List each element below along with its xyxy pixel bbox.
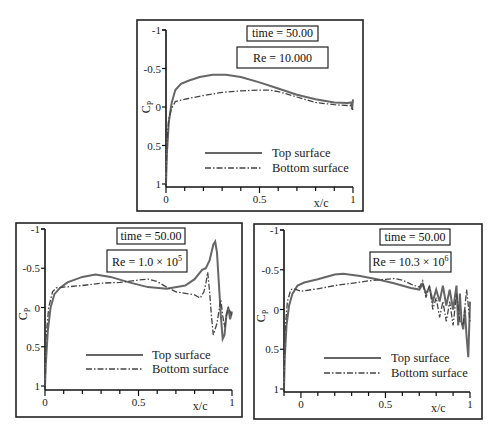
x-axis-label: x/c <box>193 399 208 413</box>
x-tick-label: 0 <box>163 193 169 205</box>
x-tick-label: 0 <box>42 396 48 408</box>
y-axis-label: CP <box>139 100 155 113</box>
x-tick-label: 0.5 <box>253 193 267 205</box>
x-axis-label: x/c <box>314 196 329 210</box>
y-tick-label: -1 <box>31 223 40 235</box>
x-tick-label: 0 <box>298 398 304 410</box>
x-axis-label: x/c <box>431 401 446 415</box>
x-tick-label: 0.5 <box>379 398 393 410</box>
y-tick-label: 1 <box>35 380 41 392</box>
legend-top-surface-label: Top surface <box>272 146 331 160</box>
time-label: time = 50.00 <box>120 229 181 243</box>
chart-panel-1: -1-0.500.5100.51x/cCPtime = 50.00Re = 10… <box>137 20 363 211</box>
x-tick-label: 1 <box>467 398 473 410</box>
legend-bottom-surface-label: Bottom surface <box>152 362 229 376</box>
time-label: time = 50.00 <box>252 26 313 40</box>
chart-panel-3: -1-0.500.5100.51x/cCPtime = 50.00Re = 10… <box>254 224 482 419</box>
y-tick-label: 0.5 <box>265 343 279 355</box>
y-tick-label: 1 <box>274 383 280 395</box>
time-label: time = 50.00 <box>384 230 445 244</box>
y-axis-label: CP <box>254 309 270 322</box>
y-tick-label: 0.5 <box>147 140 161 152</box>
chart-panel-2: -1-0.500.5100.51x/cCPtime = 50.00Re = 1.… <box>16 223 242 417</box>
y-tick-label: -0.5 <box>262 264 280 276</box>
y-tick-label: -0.5 <box>23 262 41 274</box>
y-tick-label: 0 <box>35 302 41 314</box>
y-tick-label: 0 <box>274 304 280 316</box>
x-tick-label: 0.5 <box>132 396 146 408</box>
legend-bottom-surface-label: Bottom surface <box>272 161 349 175</box>
re-label: Re = 10.000 <box>253 51 312 65</box>
y-axis-label: CP <box>16 307 32 320</box>
y-tick-label: -1 <box>152 24 161 36</box>
y-tick-label: 0 <box>156 101 162 113</box>
y-tick-label: 1 <box>156 178 162 190</box>
re-label: Re = 1.0 × 105 <box>112 254 182 269</box>
x-tick-label: 1 <box>350 193 356 205</box>
legend-bottom-surface-label: Bottom surface <box>391 366 468 380</box>
y-tick-label: -0.5 <box>144 63 162 75</box>
y-tick-label: 0.5 <box>26 341 40 353</box>
y-tick-label: -1 <box>270 224 279 236</box>
re-label: Re = 10.3 × 106 <box>373 254 449 269</box>
figure: -1-0.500.5100.51x/cCPtime = 50.00Re = 10… <box>0 0 502 435</box>
legend-top-surface-label: Top surface <box>152 348 211 362</box>
x-tick-label: 1 <box>229 396 235 408</box>
legend-top-surface-label: Top surface <box>391 351 450 365</box>
